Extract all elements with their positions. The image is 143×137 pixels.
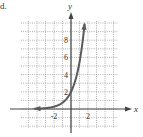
y-tick-label: 6 (64, 53, 68, 62)
y-tick-label: 4 (64, 71, 68, 80)
grid (21, 21, 118, 128)
x-tick-labels: -22 (51, 112, 90, 121)
y-tick-labels: 2468 (64, 36, 68, 97)
exponential-graph: d. y x 2468 -22 (0, 0, 143, 137)
figure-label: d. (0, 1, 7, 11)
x-tick-label: -2 (51, 112, 58, 121)
y-tick-label: 2 (64, 88, 68, 97)
y-axis-label: y (67, 1, 72, 11)
x-tick-label: 2 (86, 112, 90, 121)
x-axis-label: x (133, 104, 138, 114)
curve-line (34, 24, 84, 109)
y-tick-label: 8 (64, 36, 68, 45)
